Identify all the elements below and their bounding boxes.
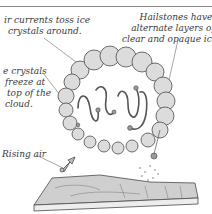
rising-air-arrow [60,157,75,172]
illustration [0,0,212,214]
cloud-interior [75,70,155,138]
ground-terrain [34,175,198,211]
